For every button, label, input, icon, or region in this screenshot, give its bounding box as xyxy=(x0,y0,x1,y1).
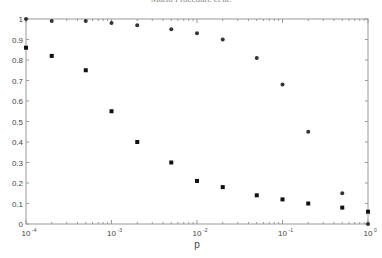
x-tick-exponent: -2 xyxy=(203,227,208,233)
x-axis-label: p xyxy=(194,239,200,250)
circle-marker xyxy=(24,17,28,21)
circle-marker xyxy=(366,222,370,226)
circle-marker xyxy=(195,31,199,35)
circle-marker xyxy=(306,130,310,134)
x-tick-label: 10 xyxy=(193,229,202,238)
y-tick-label: 0.1 xyxy=(12,200,24,209)
x-tick-label: 10 xyxy=(107,229,116,238)
x-tick-label: 10 xyxy=(278,229,287,238)
y-tick-label: 0.3 xyxy=(12,159,24,168)
circle-marker xyxy=(135,23,139,27)
square-marker xyxy=(195,179,199,183)
y-tick-label: 0.6 xyxy=(12,97,24,106)
y-tick-label: 0.8 xyxy=(12,56,24,65)
x-tick-exponent: 0 xyxy=(374,227,377,233)
y-tick-label: 0 xyxy=(19,220,24,229)
circle-marker xyxy=(110,21,114,25)
square-marker xyxy=(366,210,370,214)
y-tick-label: 0.9 xyxy=(12,36,24,45)
square-marker xyxy=(340,206,344,210)
y-tick-label: 1 xyxy=(19,15,24,24)
y-tick-label: 0.7 xyxy=(12,77,24,86)
square-marker xyxy=(281,197,285,201)
y-tick-label: 0.5 xyxy=(12,118,24,127)
square-marker xyxy=(50,54,54,58)
square-marker xyxy=(169,161,173,165)
y-tick-label: 0.4 xyxy=(12,138,24,147)
scatter-chart: 00.10.20.30.40.50.60.70.80.9110-410-310-… xyxy=(0,0,382,258)
square-marker xyxy=(221,185,225,189)
circle-marker xyxy=(84,19,88,23)
y-tick-label: 0.2 xyxy=(12,179,24,188)
square-marker xyxy=(306,202,310,206)
square-marker xyxy=(110,109,114,113)
square-marker xyxy=(255,193,259,197)
plot-frame xyxy=(26,19,368,224)
x-tick-exponent: -1 xyxy=(289,227,294,233)
x-tick-exponent: -3 xyxy=(118,227,123,233)
circle-marker xyxy=(221,38,225,42)
x-tick-label: 10 xyxy=(22,229,31,238)
circle-marker xyxy=(50,19,54,23)
square-marker xyxy=(24,46,28,50)
circle-marker xyxy=(281,83,285,87)
square-marker xyxy=(84,68,88,72)
x-tick-exponent: -4 xyxy=(32,227,37,233)
square-marker xyxy=(135,140,139,144)
circle-marker xyxy=(340,191,344,195)
circle-marker xyxy=(255,56,259,60)
x-tick-label: 10 xyxy=(364,229,373,238)
circle-marker xyxy=(169,27,173,31)
